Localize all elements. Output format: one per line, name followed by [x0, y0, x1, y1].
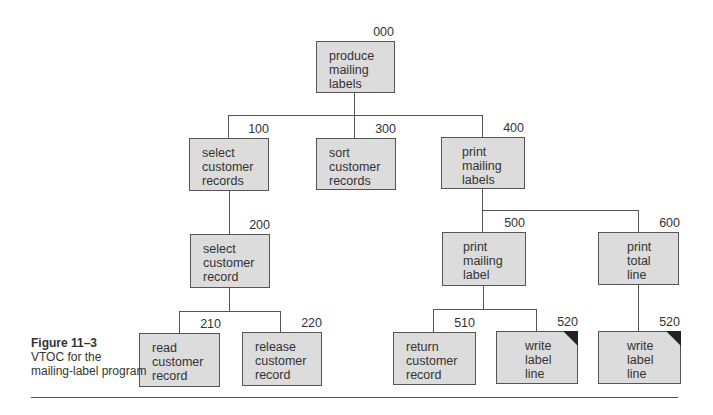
module-box: return customer record	[393, 332, 476, 385]
connector	[179, 311, 281, 312]
module-number: 500	[485, 216, 525, 230]
figure-description: VTOC for the mailing-label program	[31, 350, 146, 378]
module-label: select customer record	[203, 242, 254, 284]
module-box: select customer records	[189, 138, 269, 191]
connector	[354, 115, 355, 138]
connector	[483, 285, 484, 309]
module-label: print total line	[627, 240, 651, 282]
module-number: 400	[484, 121, 524, 135]
module-number: 510	[435, 316, 475, 330]
connector	[280, 311, 281, 332]
module-box: produce mailing labels	[316, 41, 395, 93]
module-box: select customer record	[190, 234, 270, 288]
figure-caption: Figure 11–3 VTOC for the mailing-label p…	[31, 336, 146, 378]
module-box-common: write label line	[496, 331, 578, 384]
connector	[638, 210, 639, 232]
module-number: 520	[538, 315, 578, 329]
connector	[228, 115, 483, 116]
module-number: 000	[354, 25, 394, 39]
module-number: 520	[640, 315, 680, 329]
module-box-common: write label line	[598, 331, 681, 384]
module-label: print mailing label	[463, 240, 503, 282]
connector	[179, 311, 180, 333]
module-number: 210	[181, 317, 221, 331]
module-label: return customer record	[406, 340, 457, 382]
module-label: produce mailing labels	[329, 49, 374, 91]
module-label: write label line	[627, 339, 653, 381]
module-number: 220	[282, 316, 322, 330]
connector	[433, 309, 537, 310]
connector	[482, 210, 639, 211]
module-label: write label line	[525, 339, 551, 381]
module-number: 300	[356, 122, 396, 136]
bottom-rule	[31, 397, 678, 398]
module-label: select customer records	[202, 146, 253, 188]
module-box: sort customer records	[316, 138, 396, 190]
connector	[638, 285, 639, 331]
module-label: read customer record	[152, 341, 203, 383]
connector	[536, 309, 537, 331]
connector	[482, 115, 483, 137]
module-box: release customer record	[242, 332, 322, 386]
module-box: print mailing label	[442, 232, 526, 286]
connector	[433, 309, 434, 332]
module-label: print mailing labels	[462, 145, 502, 187]
figure-number: Figure 11–3	[31, 336, 146, 350]
module-number: 600	[640, 216, 680, 230]
module-label: release customer record	[255, 340, 306, 382]
common-module-corner-icon	[563, 331, 578, 346]
connector	[354, 92, 355, 115]
module-number: 100	[229, 122, 269, 136]
module-label: sort customer records	[329, 146, 380, 188]
module-box: read customer record	[139, 333, 220, 387]
module-box: print total line	[598, 232, 679, 285]
module-number: 200	[230, 218, 270, 232]
module-box: print mailing labels	[441, 137, 525, 189]
common-module-corner-icon	[666, 331, 681, 346]
connector	[229, 288, 230, 311]
